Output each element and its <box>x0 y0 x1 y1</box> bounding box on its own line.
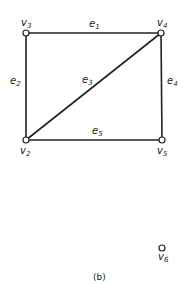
edge-e4 <box>161 33 162 140</box>
vertex-v4 <box>158 30 164 36</box>
label-e5: e5 <box>92 125 103 138</box>
label-e2: e2 <box>10 75 21 88</box>
label-e3: e3 <box>82 74 93 87</box>
label-e1: e1 <box>89 18 100 31</box>
label-v6: v6 <box>158 251 169 264</box>
edge-e3 <box>26 33 161 140</box>
label-v5: v5 <box>157 145 168 158</box>
vertex-v5 <box>159 137 165 143</box>
label-v4: v4 <box>157 17 167 30</box>
figure-caption: (b) <box>93 272 106 282</box>
vertex-v3 <box>23 30 29 36</box>
label-e4: e4 <box>167 75 178 88</box>
label-v3: v3 <box>21 17 31 30</box>
graph-diagram: v3 v4 v2 v5 v6 e1 e2 e3 e4 e5 (b) <box>0 0 183 284</box>
vertex-v2 <box>23 137 29 143</box>
label-v2: v2 <box>20 145 31 158</box>
